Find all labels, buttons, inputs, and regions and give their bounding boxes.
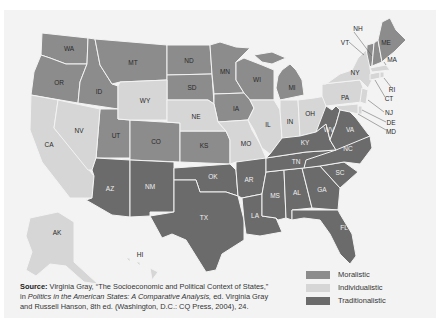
label-md: MD	[386, 128, 396, 135]
label-or: OR	[54, 79, 64, 86]
state-ak	[26, 212, 98, 284]
label-nj: NJ	[385, 109, 393, 116]
label-oh: OH	[305, 110, 315, 117]
label-nd: ND	[184, 57, 194, 64]
label-la: LA	[251, 212, 260, 219]
label-ak: AK	[53, 229, 62, 236]
label-ky: KY	[301, 139, 310, 146]
label-sd: SD	[187, 84, 196, 91]
label-mt: MT	[128, 59, 137, 66]
swatch-individualistic	[306, 284, 330, 292]
label-mo: MO	[241, 140, 251, 147]
label-ri: RI	[389, 86, 396, 93]
label-mn: MN	[220, 68, 230, 75]
label-nh: NH	[353, 25, 363, 32]
state-hi	[126, 258, 158, 280]
label-vt: VT	[341, 39, 349, 46]
label-il: IL	[265, 121, 271, 128]
label-pa: PA	[341, 94, 350, 101]
source-line1: Virginia Gray, “The Socioeconomic and Po…	[48, 282, 269, 291]
label-wi: WI	[253, 76, 261, 83]
state-ct	[370, 72, 380, 80]
label-wv: WV	[324, 126, 335, 133]
label-mi: MI	[288, 84, 295, 91]
label-va: VA	[346, 126, 355, 133]
label-ok: OK	[208, 173, 218, 180]
label-ut: UT	[112, 132, 121, 139]
label-co: CO	[151, 138, 161, 145]
label-nc: NC	[343, 145, 353, 152]
legend-item-moralistic: Moralistic	[306, 268, 426, 281]
label-hi: HI	[137, 251, 144, 258]
label-sc: SC	[335, 169, 344, 176]
label-id: ID	[96, 88, 103, 95]
label-tx: TX	[200, 214, 209, 221]
source-label: Source:	[20, 282, 48, 291]
label-ar: AR	[244, 176, 253, 183]
label-ct: CT	[385, 95, 394, 102]
label-nv: NV	[74, 127, 84, 134]
state-fl	[292, 210, 356, 264]
swatch-traditionalistic	[306, 297, 330, 305]
source-line3: and Russell Hanson, 8th ed. (Washington,…	[20, 302, 249, 311]
label-ny: NY	[350, 69, 360, 76]
label-me: ME	[381, 39, 391, 46]
source-citation: Source: Virginia Gray, “The Socioeconomi…	[20, 282, 310, 312]
legend-item-traditionalistic: Traditionalistic	[306, 294, 426, 307]
state-nj	[360, 88, 368, 104]
label-wy: WY	[140, 97, 151, 104]
legend-item-individualistic: Individualistic	[306, 281, 426, 294]
label-tn: TN	[292, 158, 301, 165]
legend-label: Moralistic	[338, 270, 370, 279]
label-ms: MS	[270, 192, 280, 199]
source-book-title: Politics in the American States: A Compa…	[28, 292, 211, 301]
label-ga: GA	[317, 186, 327, 193]
label-ia: IA	[233, 105, 240, 112]
label-ca: CA	[44, 141, 54, 148]
label-ne: NE	[191, 113, 201, 120]
label-ma: MA	[387, 56, 397, 63]
state-de	[358, 106, 362, 114]
legend-label: Individualistic	[338, 283, 383, 292]
swatch-moralistic	[306, 271, 330, 279]
state-ri	[380, 72, 384, 78]
label-nm: NM	[145, 183, 155, 190]
legend: Moralistic Individualistic Traditionalis…	[306, 268, 426, 307]
label-wa: WA	[64, 45, 75, 52]
label-al: AL	[293, 189, 301, 196]
source-line2-prefix: in	[20, 292, 28, 301]
label-ks: KS	[200, 142, 209, 149]
label-az: AZ	[106, 185, 114, 192]
state-pa	[322, 80, 364, 106]
label-fl: FL	[340, 224, 348, 231]
label-in: IN	[287, 118, 294, 125]
legend-label: Traditionalistic	[338, 296, 386, 305]
source-line2-suffix: ed. Virginia Gray	[211, 292, 268, 301]
label-de: DE	[386, 119, 396, 126]
